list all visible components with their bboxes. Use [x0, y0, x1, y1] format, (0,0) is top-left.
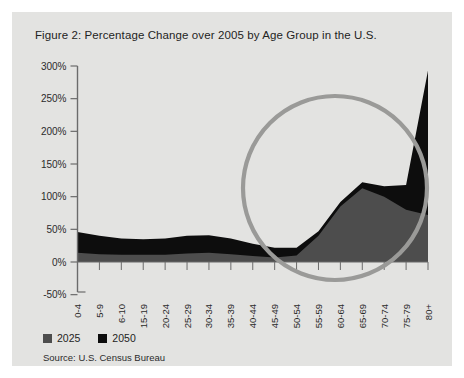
x-tick-label: 25-29	[182, 304, 193, 328]
y-tick-label: 300%	[41, 61, 67, 72]
x-tick-label: 5-9	[94, 304, 105, 318]
x-tick-label: 45-49	[269, 304, 280, 328]
y-tick-label: 200%	[41, 126, 67, 137]
x-tick-label: 75-79	[401, 304, 412, 328]
y-axis: 300%250%200%150%100%50%0%-50%	[41, 61, 78, 301]
y-tick-label: 50%	[46, 224, 66, 235]
x-tick-label: 50-54	[291, 304, 302, 328]
source-note: Source: U.S. Census Bureau	[43, 352, 165, 363]
chart-plot-area: 300%250%200%150%100%50%0%-50% 0-45-96-10…	[12, 12, 452, 366]
x-tick-label: 30-34	[203, 304, 214, 328]
figure-panel: Figure 2: Percentage Change over 2005 by…	[12, 12, 452, 366]
y-tick-label: 150%	[41, 159, 67, 170]
x-tick-label: 15-19	[138, 304, 149, 328]
y-tick-label: 250%	[41, 93, 67, 104]
legend-item-2025: 2025	[43, 332, 80, 344]
x-tick-label: 6-10	[116, 304, 127, 323]
y-tick-label: -50%	[43, 289, 66, 300]
legend-label: 2050	[112, 332, 135, 344]
x-tick-label: 40-44	[247, 304, 258, 328]
x-axis: 0-45-96-1015-1920-2425-2930-3435-3940-44…	[72, 262, 434, 328]
x-tick-label: 20-24	[160, 304, 171, 328]
legend-label: 2025	[57, 332, 80, 344]
x-tick-label: 55-59	[313, 304, 324, 328]
x-tick-label: 60-64	[335, 304, 346, 328]
x-tick-label: 65-69	[357, 304, 368, 328]
legend-swatch-icon	[43, 334, 52, 343]
chart-legend: 20252050	[43, 332, 145, 344]
legend-swatch-icon	[98, 334, 107, 343]
x-tick-label: 70-74	[379, 304, 390, 328]
x-tick-label: 35-39	[225, 304, 236, 328]
x-tick-label: 0-4	[72, 304, 83, 318]
y-tick-label: 0%	[52, 257, 67, 268]
legend-item-2050: 2050	[98, 332, 135, 344]
x-tick-label: 80+	[423, 304, 434, 321]
y-tick-label: 100%	[41, 191, 67, 202]
